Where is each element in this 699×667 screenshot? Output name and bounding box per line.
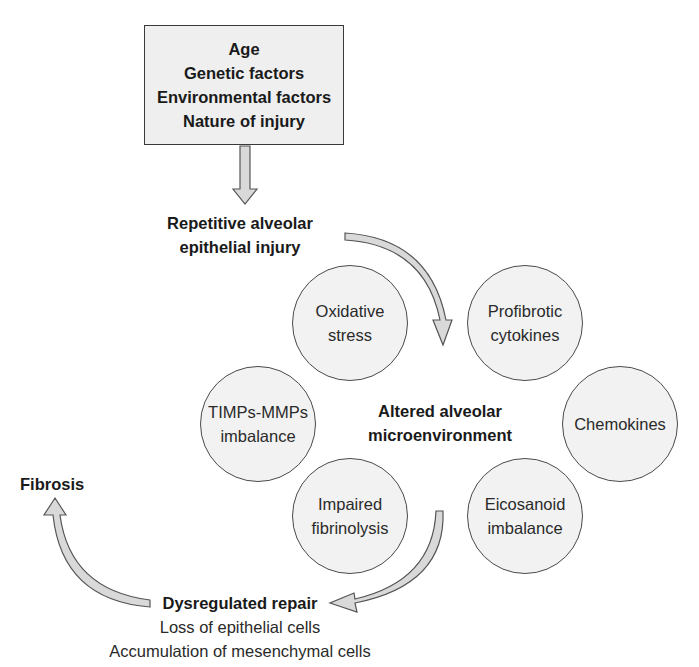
- circle-label-line: Eicosanoid: [485, 492, 566, 516]
- circle-label-line: TIMPs-MMPs: [208, 400, 308, 424]
- circle-profibrotic-cytokines: Profibrotic cytokines: [467, 265, 583, 381]
- circle-label-line: imbalance: [487, 516, 562, 540]
- repair-detail-mesenchymal-accumulation: Accumulation of mesenchymal cells: [100, 639, 380, 663]
- circle-eicosanoid-imbalance: Eicosanoid imbalance: [467, 458, 583, 574]
- fibrosis-label: Fibrosis: [20, 472, 84, 496]
- circle-oxidative-stress: Oxidative stress: [292, 265, 408, 381]
- circle-chemokines: Chemokines: [562, 366, 678, 482]
- repair-label: Dysregulated repair Loss of epithelial c…: [100, 591, 380, 663]
- center-microenvironment-label: Altered alveolar microenvironment: [355, 399, 525, 447]
- circle-label-line: Profibrotic: [488, 299, 562, 323]
- circle-timps-mmps-imbalance: TIMPs-MMPs imbalance: [200, 366, 316, 482]
- circle-label-line: Oxidative: [316, 299, 385, 323]
- risk-factor-genetic: Genetic factors: [184, 61, 304, 85]
- risk-factors-box: Age Genetic factors Environmental factor…: [144, 25, 344, 145]
- injury-label: Repetitive alveolar epithelial injury: [140, 211, 340, 259]
- injury-label-line-2: epithelial injury: [140, 235, 340, 259]
- circle-impaired-fibrinolysis: Impaired fibrinolysis: [292, 458, 408, 574]
- risk-factor-environmental: Environmental factors: [157, 85, 331, 109]
- repair-title: Dysregulated repair: [100, 591, 380, 615]
- center-label-line-2: microenvironment: [355, 423, 525, 447]
- circle-label-line: cytokines: [491, 323, 560, 347]
- risk-factor-injury-nature: Nature of injury: [183, 109, 305, 133]
- circle-label-line: Impaired: [318, 492, 382, 516]
- repair-detail-epithelial-loss: Loss of epithelial cells: [100, 615, 380, 639]
- circle-label-line: stress: [328, 323, 372, 347]
- down-arrow-icon: [233, 146, 257, 204]
- circle-label-line: fibrinolysis: [311, 516, 388, 540]
- circle-label-line: Chemokines: [574, 412, 666, 436]
- risk-factor-age: Age: [228, 37, 259, 61]
- circle-label-line: imbalance: [220, 424, 295, 448]
- injury-label-line-1: Repetitive alveolar: [140, 211, 340, 235]
- center-label-line-1: Altered alveolar: [355, 399, 525, 423]
